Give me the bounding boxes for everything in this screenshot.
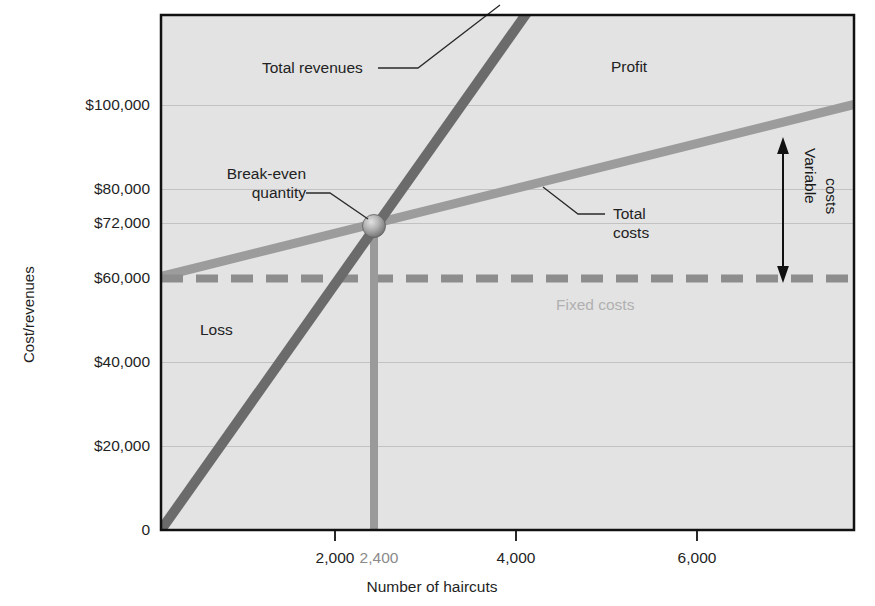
y-tick-label-0: 0: [20, 521, 150, 539]
chart-canvas: [0, 0, 875, 606]
y-tick-label-80000: $80,000: [20, 180, 150, 198]
annotation-loss: Loss: [200, 320, 233, 339]
annotation-break-even-quantity: Break-even quantity: [176, 164, 306, 202]
y-tick-label-20000: $20,000: [20, 437, 150, 455]
break-even-label-line2: quantity: [252, 184, 306, 201]
break-even-label-line1: Break-even: [227, 165, 306, 182]
annotation-total-costs: Total costs: [613, 204, 649, 242]
y-tick-label-72000: $72,000: [20, 214, 150, 232]
total-costs-label-line1: Total: [613, 205, 646, 222]
annotation-fixed-costs: Fixed costs: [556, 295, 634, 314]
y-tick-label-100000: $100,000: [20, 96, 150, 114]
y-tick-label-40000: $40,000: [20, 353, 150, 371]
annotation-total-revenues: Total revenues: [262, 58, 363, 77]
x-tick-label-4000: 4,000: [481, 549, 551, 567]
annotation-variable-costs-line1: Variable: [801, 148, 819, 204]
x-tick-label-2400: 2,400: [344, 549, 414, 567]
y-tick-label-60000: $60,000: [20, 269, 150, 287]
plot-area-background: [161, 15, 854, 530]
x-axis-ticks: [335, 530, 697, 541]
x-tick-label-6000: 6,000: [662, 549, 732, 567]
total-costs-label-line2: costs: [613, 224, 649, 241]
annotation-variable-costs-line2: costs: [822, 178, 840, 214]
x-axis-title: Number of haircuts: [367, 578, 498, 596]
annotation-profit: Profit: [611, 57, 647, 76]
breakeven-chart-figure: Cost/revenues $100,000 $80,000 $72,000 $…: [0, 0, 875, 606]
